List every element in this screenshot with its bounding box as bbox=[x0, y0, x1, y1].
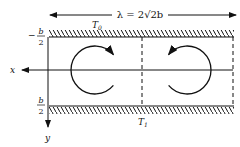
svg-text:−: − bbox=[28, 30, 36, 40]
x-axis-label: x bbox=[10, 65, 15, 75]
bottom-wall-label: T1 bbox=[138, 117, 148, 128]
svg-text:2: 2 bbox=[38, 38, 43, 47]
svg-text:b: b bbox=[38, 96, 43, 105]
wavelength-dimension: λ = 2√2b bbox=[50, 9, 236, 20]
bottom-bound-label: b 2 bbox=[37, 96, 45, 116]
svg-text:b: b bbox=[38, 27, 43, 36]
top-bound-label: − b 2 bbox=[28, 27, 45, 47]
wavelength-label: λ = 2√2b bbox=[117, 9, 164, 20]
y-axis-label: y bbox=[44, 133, 51, 143]
convection-roll-diagram: λ = 2√2b T0 T1 x y − b 2 b 2 bbox=[0, 0, 240, 147]
svg-text:2: 2 bbox=[38, 107, 43, 116]
top-wall-label: T0 bbox=[92, 20, 102, 31]
top-wall-hatching bbox=[49, 30, 234, 37]
bottom-wall-hatching bbox=[49, 107, 234, 114]
